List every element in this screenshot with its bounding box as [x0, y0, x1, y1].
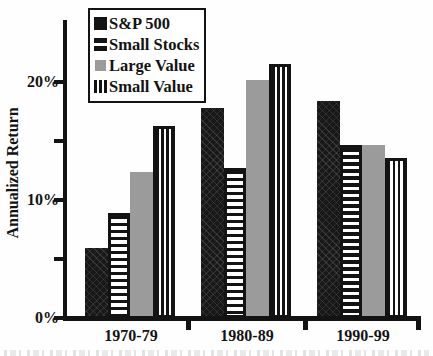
- legend-label: Small Stocks: [109, 36, 199, 53]
- x-axis-tick: [186, 316, 191, 330]
- vertical-stripes-swatch-icon: [94, 80, 107, 93]
- bar-s-p-500-1970-79: [85, 248, 108, 318]
- legend-rows: S&P 500Small StocksLarge ValueSmall Valu…: [94, 13, 200, 97]
- legend-item-small-value: Small Value: [94, 76, 200, 97]
- legend: S&P 500Small StocksLarge ValueSmall Valu…: [88, 8, 206, 103]
- x-axis-tick: [416, 316, 421, 330]
- bar-small-stocks-1980-89: [224, 168, 247, 318]
- bar-s-p-500-1990-99: [317, 101, 340, 318]
- horizontal-stripes-swatch-icon: [94, 38, 107, 51]
- x-category-label: 1970-79: [85, 327, 177, 345]
- legend-label: S&P 500: [109, 15, 170, 32]
- bar-small-stocks-1970-79: [108, 213, 131, 318]
- bar-small-value-1980-89: [269, 64, 292, 318]
- bar-s-p-500-1980-89: [201, 108, 224, 318]
- solid-gray-swatch-icon: [95, 60, 106, 71]
- y-tick-label: 20%: [16, 74, 59, 90]
- legend-label: Large Value: [109, 57, 195, 74]
- legend-label: Small Value: [109, 78, 193, 95]
- legend-item-small-stocks: Small Stocks: [94, 34, 200, 55]
- x-axis-line: [63, 316, 421, 321]
- x-category-label: 1990-99: [317, 327, 409, 345]
- y-tick-mark: [54, 257, 64, 261]
- bar-large-value-1980-89: [246, 80, 269, 318]
- bar-small-value-1990-99: [385, 158, 408, 318]
- legend-item-s-p-500: S&P 500: [94, 13, 200, 34]
- y-tick-label: 0%: [16, 310, 59, 326]
- x-axis-tick: [303, 316, 308, 330]
- solid-black-swatch-icon: [94, 17, 107, 30]
- y-axis-title: Annualized Return: [4, 98, 22, 248]
- bar-small-stocks-1990-99: [340, 145, 363, 318]
- x-category-label: 1980-89: [201, 327, 293, 345]
- y-tick-mark: [54, 139, 64, 143]
- bar-large-value-1990-99: [362, 145, 385, 318]
- bar-small-value-1970-79: [153, 126, 176, 318]
- legend-item-large-value: Large Value: [94, 55, 200, 76]
- y-tick-label: 10%: [16, 192, 59, 208]
- cropped-caption-fragment: [4, 350, 429, 356]
- bar-large-value-1970-79: [130, 172, 153, 318]
- bar-chart-figure: Annualized Return 0%10%20% 1970-791980-8…: [0, 0, 433, 356]
- y-axis-line: [63, 20, 67, 321]
